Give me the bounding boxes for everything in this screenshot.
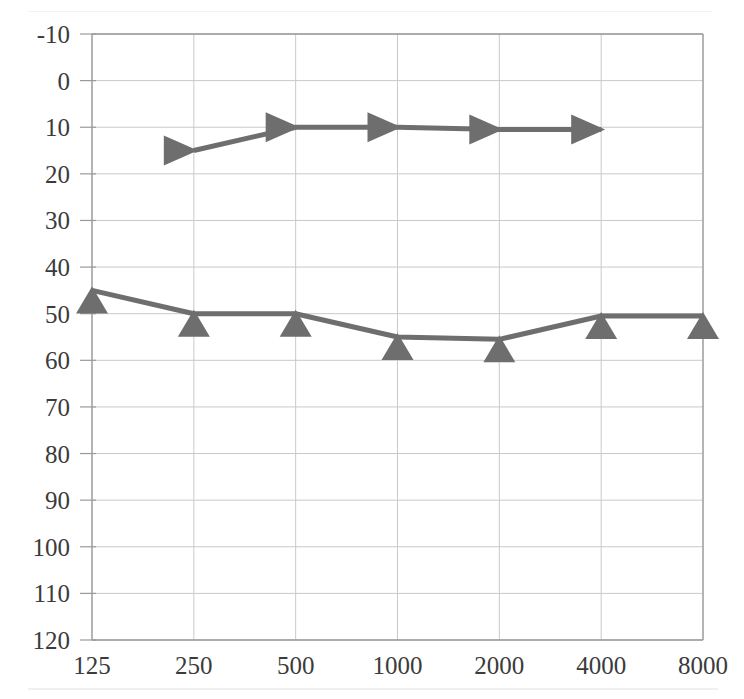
y-tick-label: 110	[33, 580, 70, 607]
y-tick-label: 70	[45, 394, 70, 421]
y-tick-label: 10	[45, 114, 70, 141]
x-tick-label: 8000	[678, 652, 728, 679]
x-tick-label: 4000	[576, 652, 626, 679]
y-tick-label: 0	[58, 68, 71, 95]
y-tick-label: 100	[33, 534, 71, 561]
bottom-divider	[28, 688, 718, 690]
chart-canvas: -100102030405060708090100110120 12525050…	[0, 0, 744, 699]
x-tick-label: 250	[175, 652, 213, 679]
x-tick-label: 1000	[373, 652, 423, 679]
x-axis-tick-labels: 1252505001000200040008000	[73, 652, 728, 679]
y-tick-label: -10	[37, 21, 70, 48]
y-tick-label: 80	[45, 441, 70, 468]
y-tick-label: 50	[45, 301, 70, 328]
marker-bone-conduction-masked-250	[164, 136, 198, 166]
x-tick-label: 2000	[474, 652, 524, 679]
y-tick-label: 60	[45, 347, 70, 374]
marker-bone-conduction-masked-4000	[571, 115, 605, 145]
marker-bone-conduction-masked-500	[266, 112, 300, 142]
marker-bone-conduction-masked-1000	[368, 112, 402, 142]
y-tick-label: 30	[45, 207, 70, 234]
y-tick-marks	[80, 34, 96, 640]
x-tick-label: 125	[73, 652, 111, 679]
audiogram-chart: -100102030405060708090100110120 12525050…	[0, 0, 744, 699]
x-tick-label: 500	[277, 652, 315, 679]
y-tick-label: 20	[45, 161, 70, 188]
y-tick-label: 120	[33, 627, 71, 654]
y-tick-label: 90	[45, 487, 70, 514]
y-tick-label: 40	[45, 254, 70, 281]
marker-bone-conduction-masked-2000	[469, 115, 503, 145]
y-axis-tick-labels: -100102030405060708090100110120	[33, 21, 71, 654]
